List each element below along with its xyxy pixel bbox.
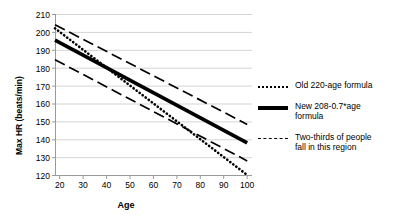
legend-label-line2: fall in this region: [295, 142, 410, 153]
dotted-line-key-icon: [258, 83, 290, 93]
legend-label: Two-thirds of people: [295, 132, 410, 143]
y-tick-label: 120: [24, 171, 50, 181]
x-tick-label: 50: [119, 180, 141, 190]
legend-item-two-thirds-region[interactable]: Two-thirds of people fall in this region: [258, 132, 410, 153]
x-tick-label: 90: [213, 180, 235, 190]
y-axis-title: Max HR (beats/min): [14, 76, 24, 155]
legend-item-old-formula[interactable]: Old 220-age formula: [258, 80, 410, 91]
y-tick-label: 180: [24, 64, 50, 74]
x-tick-label: 40: [96, 180, 118, 190]
x-tick-label: 70: [166, 180, 188, 190]
y-tick-label: 190: [24, 46, 50, 56]
legend-label-wrap: Two-thirds of people fall in this region: [295, 132, 410, 153]
x-tick-label: 30: [72, 180, 94, 190]
y-tick-label: 210: [24, 10, 50, 20]
y-tick-label: 160: [24, 99, 50, 109]
chart-container: Max HR (beats/min) 210 200 190 180 170 1…: [0, 0, 410, 224]
legend-item-new-formula[interactable]: New 208-0.7*age formula: [258, 101, 410, 122]
y-tick-label: 150: [24, 117, 50, 127]
legend-label: New 208-0.7*age: [295, 101, 410, 112]
y-tick-label: 130: [24, 153, 50, 163]
legend-label-line2: formula: [295, 111, 410, 122]
solid-line-key-icon: [258, 104, 290, 114]
x-tick-marks: [60, 176, 248, 180]
y-tick-marks: [52, 15, 55, 176]
y-tick-label: 170: [24, 82, 50, 92]
x-tick-label: 60: [142, 180, 164, 190]
dashed-line-key-icon: [258, 135, 290, 145]
legend-label: Old 220-age formula: [295, 80, 410, 91]
y-tick-label: 140: [24, 135, 50, 145]
legend-label-wrap: New 208-0.7*age formula: [295, 101, 410, 122]
x-tick-label: 80: [189, 180, 211, 190]
x-tick-label: 20: [49, 180, 71, 190]
y-tick-label: 200: [24, 28, 50, 38]
chart-legend: Old 220-age formula New 208-0.7*age form…: [258, 80, 410, 163]
x-axis-title: Age: [0, 200, 252, 210]
x-tick-label: 100: [236, 180, 258, 190]
